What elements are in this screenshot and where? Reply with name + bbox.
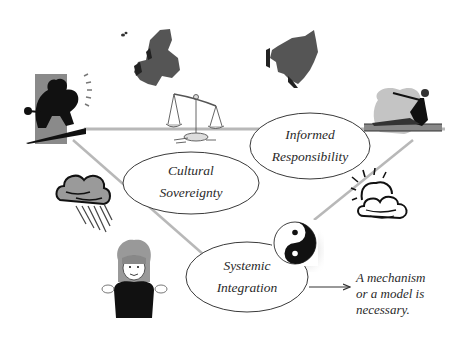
- exercising-woman-icon: [364, 88, 442, 134]
- surfer-figure-icon: [24, 74, 92, 144]
- diagram-canvas: Informed Responsibility Cultural Soverei…: [0, 0, 465, 340]
- note-line: necessary.: [356, 302, 425, 318]
- note-text: A mechanism or a model is necessary.: [356, 270, 425, 318]
- node-label-line: Integration: [187, 277, 307, 299]
- note-line: or a model is: [356, 286, 425, 302]
- node-label-line: Responsibility: [250, 146, 370, 168]
- node-informed-responsibility: Informed Responsibility: [250, 124, 370, 168]
- node-systemic-integration: Systemic Integration: [187, 255, 307, 299]
- sun-cloud-icon: [351, 168, 407, 218]
- balance-scale-icon: [166, 94, 224, 143]
- rain-cloud-icon: [57, 176, 112, 232]
- node-label-line: Systemic: [187, 255, 307, 277]
- europe-map-icon: [121, 29, 180, 86]
- asia-map-icon: [266, 30, 318, 88]
- girl-shrugging-icon: [102, 240, 167, 318]
- node-label-line: Cultural: [131, 160, 251, 182]
- node-cultural-sovereignty: Cultural Sovereignty: [131, 160, 251, 204]
- note-line: A mechanism: [356, 270, 425, 286]
- node-label-line: Sovereignty: [131, 182, 251, 204]
- node-label-line: Informed: [250, 124, 370, 146]
